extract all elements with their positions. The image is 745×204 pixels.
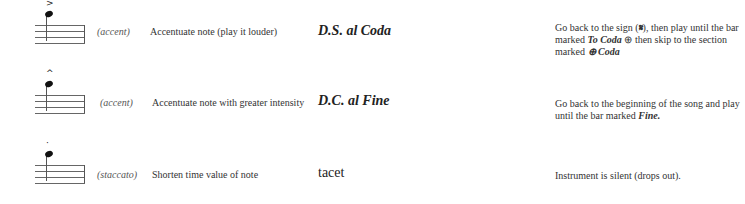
term-explanation: Instrument is silent (drops out).: [555, 170, 745, 182]
term-label: tacet: [318, 165, 344, 181]
symbol-name: (accent): [97, 26, 130, 37]
staccato-note-icon: ·: [35, 165, 85, 183]
term-label: D.C. al Fine: [318, 93, 390, 109]
term-label: D.S. al Coda: [318, 23, 391, 39]
term-explanation: Go back to the sign (𝄋), then play until…: [555, 22, 745, 58]
symbol-description: Accentuate note with greater intensity: [152, 97, 304, 108]
symbol-name: (staccato): [97, 169, 137, 180]
accent-note-icon: >: [35, 25, 85, 43]
symbol-description: Accentuate note (play it louder): [150, 26, 277, 37]
symbol-name: (accent): [100, 97, 133, 108]
symbol-description: Shorten time value of note: [152, 169, 258, 180]
marcato-note-icon: ^: [35, 95, 85, 113]
term-explanation: Go back to the beginning of the song and…: [555, 98, 745, 122]
